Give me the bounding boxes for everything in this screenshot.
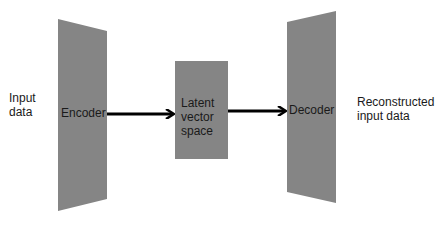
decoder-label: Decoder [289,103,334,117]
input-data-label: Input data [9,91,36,119]
latent-label-line: vector [181,110,214,124]
input-label-line: data [9,105,36,119]
encoder-label-text: Encoder [61,106,106,120]
latent-label-line: space [181,124,214,138]
output-label-line: input data [357,109,434,123]
decoder-label-text: Decoder [289,103,334,117]
input-label-line: Input [9,91,36,105]
reconstructed-data-label: Reconstructed input data [357,95,434,123]
encoder-label: Encoder [61,106,106,120]
latent-label-line: Latent [181,96,214,110]
output-label-line: Reconstructed [357,95,434,109]
latent-label: Latent vector space [181,96,214,138]
